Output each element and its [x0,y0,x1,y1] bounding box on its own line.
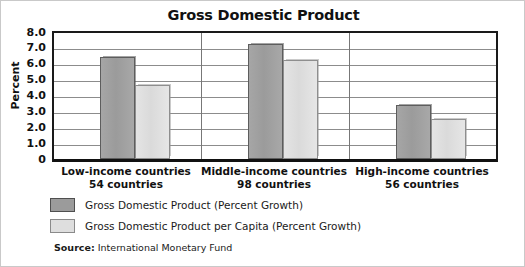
legend-swatch-gdp-icon [50,198,75,212]
x-category-label-middle-income: Middle-income countries 98 countries [200,165,348,191]
category-separator [349,33,350,159]
chart-figure: Gross Domestic Product Percent 8.0 7.0 6… [0,0,525,267]
source-note: Source: International Monetary Fund [54,242,232,253]
category-count: 98 countries [200,178,348,191]
y-tick-label: 4.0 [6,90,46,101]
y-tick-label: 6.0 [6,58,46,69]
bar-gdp-per-capita-middle-income [283,60,318,159]
category-name: Low-income countries [61,165,191,177]
bar-gdp-low-income [100,57,135,159]
y-tick-label: 2.0 [6,122,46,133]
category-name: Middle-income countries [201,165,347,177]
category-name: High-income countries [355,165,489,177]
legend-swatch-gdp-per-capita-icon [50,219,75,233]
y-tick-label: 0 [6,154,46,165]
y-tick-label: 7.0 [6,42,46,53]
category-count: 56 countries [348,178,496,191]
y-tick-label: 5.0 [6,74,46,85]
legend-item-gdp: Gross Domestic Product (Percent Growth) [50,194,361,215]
bar-gdp-middle-income [248,44,283,159]
x-category-label-low-income: Low-income countries 54 countries [52,165,200,191]
source-text: International Monetary Fund [98,242,233,253]
bar-gdp-per-capita-low-income [135,85,170,159]
category-separator [201,33,202,159]
x-category-label-high-income: High-income countries 56 countries [348,165,496,191]
plot-area [52,31,498,162]
legend-item-gdp-per-capita: Gross Domestic Product per Capita (Perce… [50,215,361,236]
y-tick-label: 1.0 [6,138,46,149]
y-tick-label: 3.0 [6,106,46,117]
legend-label-gdp: Gross Domestic Product (Percent Growth) [85,199,303,211]
y-tick-label: 8.0 [6,27,46,38]
bar-gdp-per-capita-high-income [431,119,466,159]
source-label: Source: [54,242,95,253]
plot-inner [54,33,496,159]
chart-title: Gross Domestic Product [1,7,525,23]
category-count: 54 countries [52,178,200,191]
legend-label-gdp-per-capita: Gross Domestic Product per Capita (Perce… [85,220,361,232]
bar-gdp-high-income [396,105,431,159]
legend: Gross Domestic Product (Percent Growth) … [50,194,361,236]
